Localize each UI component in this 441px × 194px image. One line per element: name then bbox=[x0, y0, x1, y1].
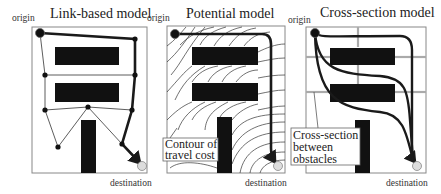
panel-potential: Potential model origin destination bbox=[147, 6, 287, 188]
panel-cross-section: Cross-section model origin destination C… bbox=[288, 5, 435, 188]
destination-label: destination bbox=[110, 178, 152, 188]
callout-line: travel cost bbox=[165, 148, 215, 162]
callout-leader bbox=[314, 92, 318, 128]
destination-marker bbox=[274, 162, 283, 171]
panel-title: Link-based model bbox=[50, 6, 152, 21]
origin-marker bbox=[36, 29, 45, 38]
origin-marker bbox=[311, 29, 320, 38]
destination-marker bbox=[138, 162, 147, 171]
origin-marker bbox=[171, 30, 180, 39]
origin-label: origin bbox=[288, 15, 311, 25]
panel-title: Potential model bbox=[186, 6, 274, 21]
obstacle bbox=[330, 84, 395, 102]
obstacle bbox=[81, 120, 96, 173]
obstacle bbox=[192, 47, 258, 65]
obstacle bbox=[192, 83, 258, 101]
obstacle bbox=[217, 117, 232, 173]
origin-label: origin bbox=[147, 13, 170, 23]
obstacle bbox=[55, 83, 119, 102]
destination-label: destination bbox=[245, 178, 287, 188]
callout-line: obstacles bbox=[293, 152, 337, 166]
obstacle bbox=[55, 47, 119, 65]
figure: Link-based model origin destination bbox=[0, 0, 441, 194]
panel-link-based: Link-based model origin destination bbox=[12, 6, 152, 188]
panel-title: Cross-section model bbox=[320, 5, 435, 20]
destination-marker bbox=[413, 162, 422, 171]
origin-label: origin bbox=[12, 13, 35, 23]
destination-label: destination bbox=[386, 178, 428, 188]
obstacle bbox=[330, 48, 395, 65]
